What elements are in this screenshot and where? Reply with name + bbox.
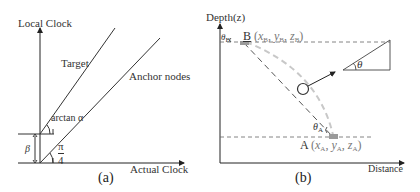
theta-b-sub: B bbox=[225, 36, 230, 44]
pi-denominator: 4 bbox=[58, 154, 64, 166]
slope-angle-arc bbox=[353, 63, 356, 70]
y-axis-label-a: Local Clock bbox=[18, 18, 72, 29]
beta-label: β bbox=[25, 144, 30, 154]
arctan-alpha-label: arctan α bbox=[51, 113, 83, 123]
slope-theta-label: θ bbox=[357, 59, 362, 70]
caption-b: (b) bbox=[295, 171, 311, 185]
y-axis-label-b: Depth(z) bbox=[206, 12, 245, 23]
node-circle bbox=[298, 84, 309, 95]
theta-a-sub: A bbox=[318, 126, 323, 134]
anchor-line-label: Anchor nodes bbox=[129, 71, 190, 82]
caption-a: (a) bbox=[98, 171, 114, 185]
x-axis-label-a: Actual Clock bbox=[130, 164, 188, 175]
slope-triangle bbox=[343, 40, 390, 70]
point-a-coords: (xA, yA, zA) bbox=[311, 138, 362, 152]
point-b-coords: (xB, yB, zB) bbox=[254, 29, 303, 43]
point-b-label: B (xB, yB, zB) bbox=[243, 30, 303, 44]
arctan-arc bbox=[47, 125, 50, 134]
panel-a bbox=[18, 28, 184, 163]
theta-a-label: θA bbox=[313, 122, 323, 134]
target-line-label: Target bbox=[61, 58, 89, 69]
pi-over-4-label: π 4 bbox=[58, 141, 64, 166]
x-axis-label-b: Distance bbox=[368, 164, 403, 174]
point-a-name: A bbox=[300, 138, 308, 152]
point-a-label: A (xA, yA, zA) bbox=[300, 139, 362, 153]
theta-b-label: θB bbox=[221, 33, 230, 44]
point-b-name: B bbox=[243, 29, 251, 43]
direction-arrow bbox=[308, 72, 335, 86]
pi-numerator: π bbox=[58, 140, 64, 152]
